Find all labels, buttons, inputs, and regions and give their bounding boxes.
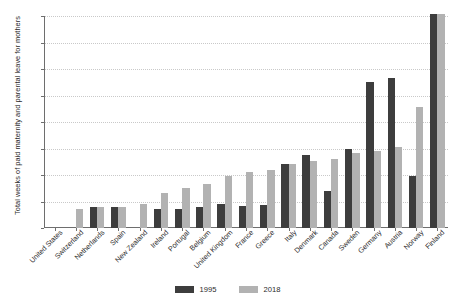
bar-group[interactable] xyxy=(90,16,105,228)
bar-2018[interactable] xyxy=(267,170,274,228)
x-axis-label-finland: Finland xyxy=(424,228,447,251)
bar-1995[interactable] xyxy=(409,176,416,228)
x-axis-tick-labels: United StatesSwitzerlandNetherlandsSpain… xyxy=(44,228,448,286)
bar-2018[interactable] xyxy=(203,184,210,228)
bar-2018[interactable] xyxy=(76,209,83,228)
bar-1995[interactable] xyxy=(324,191,331,228)
bar-group[interactable] xyxy=(281,16,296,228)
bar-1995[interactable] xyxy=(345,149,352,229)
bar-2018[interactable] xyxy=(118,207,125,228)
bar-group[interactable] xyxy=(430,16,445,228)
legend-label: 1995 xyxy=(200,285,217,294)
legend-label: 2018 xyxy=(264,285,281,294)
bar-group[interactable] xyxy=(132,16,147,228)
bar-group[interactable] xyxy=(47,16,62,228)
x-axis-label-portugal: Portugal xyxy=(166,228,191,253)
x-axis-label-italy: Italy xyxy=(282,228,298,244)
bar-1995[interactable] xyxy=(239,206,246,228)
x-axis-label-greece: Greece xyxy=(254,228,277,251)
bar-2018[interactable] xyxy=(246,172,253,228)
bar-group[interactable] xyxy=(175,16,190,228)
bar-group[interactable] xyxy=(366,16,381,228)
x-axis-label-france: France xyxy=(233,228,255,250)
bar-1995[interactable] xyxy=(430,14,437,228)
x-axis-label-norway: Norway xyxy=(402,228,426,252)
bar-1995[interactable] xyxy=(217,204,224,229)
bar-1995[interactable] xyxy=(366,82,373,228)
bar-2018[interactable] xyxy=(289,164,296,228)
bar-1995[interactable] xyxy=(154,209,161,228)
legend-swatch xyxy=(175,286,194,293)
bar-group[interactable] xyxy=(324,16,339,228)
bar-2018[interactable] xyxy=(97,207,104,228)
bars-layer xyxy=(44,16,448,228)
bar-2018[interactable] xyxy=(395,147,402,228)
bar-1995[interactable] xyxy=(260,205,267,228)
bar-2018[interactable] xyxy=(416,107,423,228)
y-axis-title: Total weeks of paid maternity and parent… xyxy=(13,0,22,232)
bar-group[interactable] xyxy=(260,16,275,228)
bar-1995[interactable] xyxy=(281,164,288,228)
bar-2018[interactable] xyxy=(182,188,189,228)
bar-2018[interactable] xyxy=(310,161,317,228)
legend-item-1995[interactable]: 1995 xyxy=(175,285,217,294)
x-axis-label-canada: Canada xyxy=(316,228,340,252)
bar-group[interactable] xyxy=(217,16,232,228)
bar-2018[interactable] xyxy=(352,153,359,228)
bar-2018[interactable] xyxy=(374,151,381,229)
bar-1995[interactable] xyxy=(388,78,395,228)
bar-1995[interactable] xyxy=(111,207,118,228)
bar-2018[interactable] xyxy=(331,159,338,228)
plot-area: 020406080100120140160 xyxy=(44,16,448,228)
bar-1995[interactable] xyxy=(175,209,182,228)
bar-chart: Total weeks of paid maternity and parent… xyxy=(0,0,455,304)
x-axis-label-austria: Austria xyxy=(382,228,404,250)
bar-1995[interactable] xyxy=(302,155,309,228)
bar-2018[interactable] xyxy=(225,176,232,228)
bar-1995[interactable] xyxy=(196,207,203,228)
bar-group[interactable] xyxy=(111,16,126,228)
legend-item-2018[interactable]: 2018 xyxy=(239,285,281,294)
bar-2018[interactable] xyxy=(161,193,168,228)
bar-2018[interactable] xyxy=(437,14,444,228)
bar-2018[interactable] xyxy=(140,204,147,229)
bar-group[interactable] xyxy=(69,16,84,228)
chart-legend: 19952018 xyxy=(0,285,455,294)
bar-group[interactable] xyxy=(345,16,360,228)
bar-1995[interactable] xyxy=(90,207,97,228)
bar-group[interactable] xyxy=(154,16,169,228)
bar-group[interactable] xyxy=(409,16,424,228)
bar-group[interactable] xyxy=(239,16,254,228)
bar-group[interactable] xyxy=(388,16,403,228)
bar-group[interactable] xyxy=(302,16,317,228)
bar-group[interactable] xyxy=(196,16,211,228)
legend-swatch xyxy=(239,286,258,293)
